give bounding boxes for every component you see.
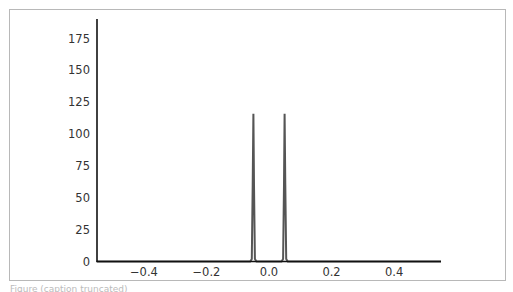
- y-tick-label: 150: [68, 63, 90, 77]
- x-tick-label: −0.2: [192, 265, 220, 279]
- figure-caption: Figure (caption truncated): [10, 284, 128, 292]
- y-tick-label: 50: [75, 191, 90, 205]
- y-tick-label: 25: [75, 223, 90, 237]
- line-chart: 0255075100125150175 −0.4−0.20.00.20.4: [0, 0, 513, 292]
- x-tick-label: 0.0: [260, 265, 278, 279]
- x-tick-label: −0.4: [130, 265, 158, 279]
- signal-line: [97, 114, 441, 262]
- y-tick-label: 125: [68, 95, 90, 109]
- y-axis-ticks: 0255075100125150175: [68, 32, 90, 269]
- y-tick-label: 75: [75, 159, 90, 173]
- x-tick-label: 0.4: [385, 265, 403, 279]
- y-tick-label: 0: [83, 255, 90, 269]
- y-tick-label: 100: [68, 127, 90, 141]
- x-axis-ticks: −0.4−0.20.00.20.4: [130, 265, 403, 279]
- y-tick-label: 175: [68, 32, 90, 46]
- x-tick-label: 0.2: [322, 265, 340, 279]
